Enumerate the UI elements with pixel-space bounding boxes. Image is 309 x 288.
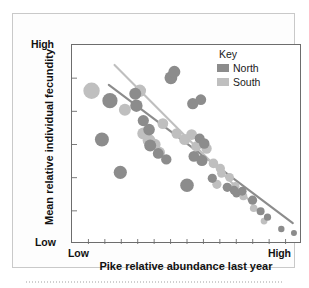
x-axis-high-label: High xyxy=(268,247,291,259)
decorative-dotted-rule xyxy=(26,281,284,283)
data-point xyxy=(83,83,99,99)
legend-item-south: South xyxy=(217,76,291,88)
data-point xyxy=(196,155,207,166)
data-point xyxy=(238,187,247,196)
y-axis-low-label: Low xyxy=(35,236,56,248)
legend-label-south: South xyxy=(233,76,260,88)
data-point xyxy=(278,226,284,232)
figure-card: High Low Low High Mean relative individu… xyxy=(12,13,295,268)
data-point xyxy=(180,179,194,193)
legend-swatch-north-icon xyxy=(217,64,229,72)
data-point xyxy=(157,118,168,129)
data-point xyxy=(114,166,127,179)
data-point xyxy=(225,173,234,182)
y-axis-title: Mean relative individual fecundity xyxy=(43,37,55,237)
data-point xyxy=(217,169,226,178)
data-point xyxy=(250,204,258,212)
data-point xyxy=(143,124,155,136)
data-point xyxy=(291,230,297,236)
data-point xyxy=(95,133,109,147)
figure-root: High Low Low High Mean relative individu… xyxy=(0,0,309,288)
legend-title: Key xyxy=(217,48,291,60)
legend-swatch-south-icon xyxy=(217,78,229,86)
data-point xyxy=(264,214,271,221)
x-axis-title: Pike relative abundance last year xyxy=(71,260,301,272)
data-point xyxy=(195,94,206,105)
legend: Key North South xyxy=(217,48,291,89)
data-point xyxy=(199,138,209,148)
data-point xyxy=(248,196,257,205)
x-axis-low-label: Low xyxy=(68,247,89,259)
data-point xyxy=(130,100,142,112)
data-point xyxy=(119,104,131,116)
data-point xyxy=(102,93,117,108)
legend-label-north: North xyxy=(233,62,259,74)
data-point xyxy=(257,207,265,215)
data-point xyxy=(129,88,141,100)
data-point xyxy=(208,174,217,183)
data-point xyxy=(168,66,180,78)
legend-item-north: North xyxy=(217,62,291,74)
data-point xyxy=(161,154,171,164)
